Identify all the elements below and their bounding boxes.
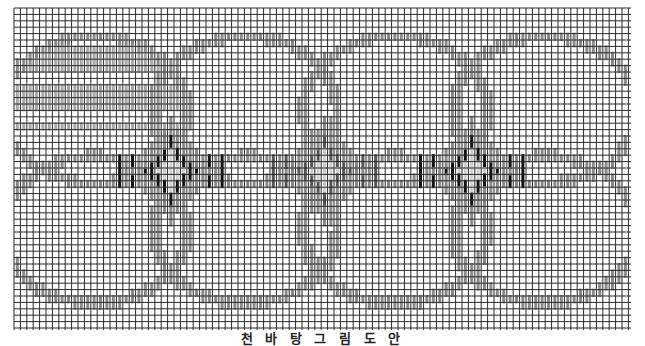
chart-caption: 천 바 탕 그 림 도 안 xyxy=(0,332,645,346)
